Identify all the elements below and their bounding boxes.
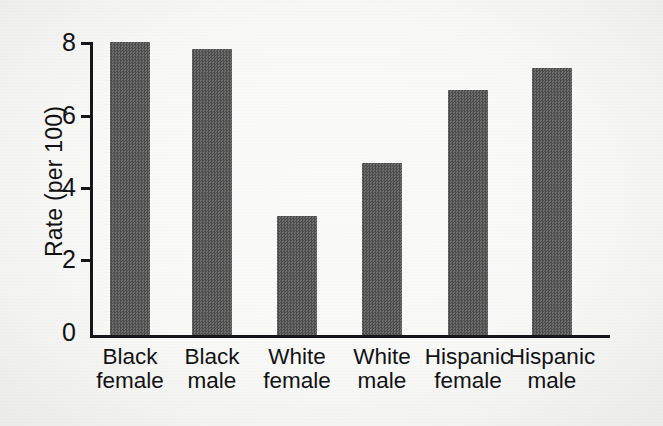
y-tick-label-4: 4: [36, 175, 76, 200]
y-tick-label-8: 8: [36, 30, 76, 55]
x-axis-line: [90, 335, 610, 338]
bar-black-female: [110, 42, 150, 335]
bar-black-male: [192, 49, 232, 335]
y-tick-label-2: 2: [36, 247, 76, 272]
y-tick-label-6: 6: [36, 103, 76, 128]
x-label-line1: Hispanic: [472, 345, 632, 369]
bar-white-male: [362, 163, 402, 335]
bar-hispanic-female: [448, 90, 488, 335]
bar-chart-figure: Rate (per 100) 8 6 4 2 0 Black female Bl…: [0, 0, 663, 426]
bar-white-female: [277, 216, 317, 335]
bar-hispanic-male: [532, 68, 572, 335]
y-axis-line: [90, 42, 93, 338]
x-label-line2: male: [472, 369, 632, 393]
x-label-hispanic-male: Hispanic male: [472, 345, 632, 394]
y-tick-label-0: 0: [36, 320, 76, 345]
